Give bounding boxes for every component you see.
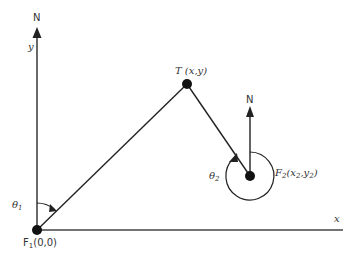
t-label: T (x,y)	[175, 66, 207, 76]
arc-arrow-icon	[49, 204, 57, 212]
segment-t-f2	[187, 84, 250, 176]
north-axis-f1	[33, 27, 42, 230]
f1-label: F1(0,0)	[23, 238, 57, 250]
north-arrow-icon	[33, 27, 42, 38]
north-arrow-icon	[246, 106, 254, 117]
theta2-label: θ2	[209, 171, 220, 183]
f2-label: F2(x2,y2)	[275, 168, 318, 180]
north-label-f2: N	[246, 95, 253, 105]
y-axis-label: y	[28, 42, 34, 52]
theta1-label: θ1	[12, 200, 23, 212]
point-f2	[245, 171, 255, 181]
north-label-f1: N	[33, 13, 40, 23]
x-axis-label: x	[334, 214, 340, 224]
arc-arrow-icon	[229, 153, 238, 162]
diagram-canvas: N y x F1(0,0) T (x,y) N F2(x2,y2) θ1 θ2	[0, 0, 354, 265]
segment-f1-t	[37, 84, 187, 230]
north-axis-f2	[246, 106, 254, 176]
point-f1	[32, 225, 42, 235]
diagram-lines	[0, 0, 354, 265]
theta1-arc	[37, 203, 57, 212]
point-t	[182, 79, 192, 89]
